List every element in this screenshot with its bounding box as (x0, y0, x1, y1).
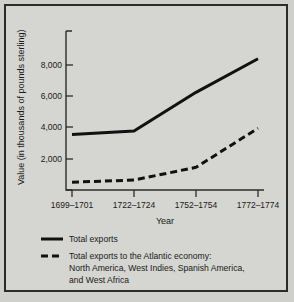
y-tick-label-6000: 6,000 (41, 91, 63, 101)
x-tick-label-3: 1752–1754 (175, 200, 218, 210)
legend-label-atlantic-economy-line3: and West Africa (69, 275, 129, 285)
x-tick-label-1: 1699–1701 (51, 200, 94, 210)
figure-container: Value (in thousands of pounds sterling) … (0, 0, 294, 302)
y-axis-spine (66, 31, 72, 190)
series-atlantic-economy-exports (72, 128, 258, 182)
x-axis-title: Year (156, 216, 174, 226)
y-tick-label-2000: 2,000 (41, 154, 63, 164)
y-axis-title: Value (in thousands of pounds sterling) (16, 30, 26, 185)
x-tick-label-2: 1722–1724 (113, 200, 156, 210)
exports-line-chart: Value (in thousands of pounds sterling) … (0, 0, 294, 302)
y-tick-label-8000: 8,000 (41, 60, 63, 70)
x-tick-label-4: 1772–1774 (237, 200, 280, 210)
legend-label-atlantic-economy-line2: North America, West Indies, Spanish Amer… (69, 263, 245, 273)
legend-label-atlantic-economy-line1: Total exports to the Atlantic economy: (69, 251, 211, 261)
y-tick-label-4000: 4,000 (41, 122, 63, 132)
series-total-exports (72, 59, 258, 135)
legend-label-total-exports: Total exports (69, 234, 118, 244)
